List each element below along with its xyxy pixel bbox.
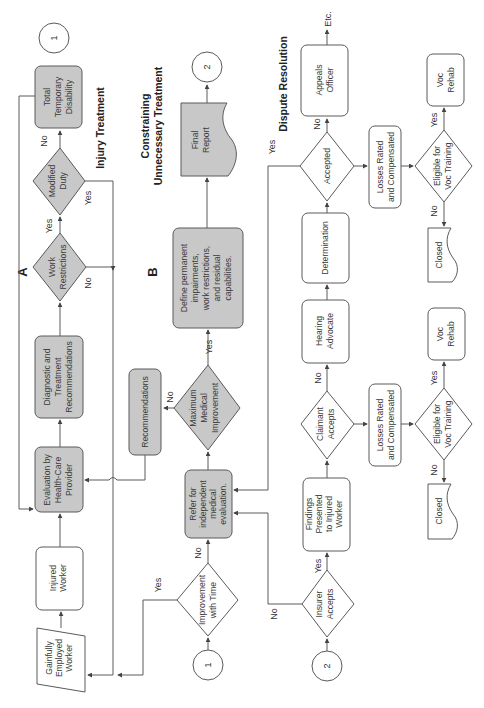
svg-text:Claimant: Claimant bbox=[315, 406, 325, 441]
edge-label-claimant-no: No bbox=[313, 372, 323, 384]
edge-label-mmi-no: No bbox=[165, 391, 175, 403]
node-determination: Determination bbox=[302, 213, 349, 283]
node-voc-rehab-1: Voc Rehab bbox=[427, 54, 464, 106]
edge-label-etc: Etc. bbox=[323, 11, 333, 27]
svg-text:Medical: Medical bbox=[199, 393, 209, 423]
section-title-constraining: Constraining bbox=[139, 94, 151, 159]
svg-text:and Compensated: and Compensated bbox=[386, 132, 396, 202]
svg-text:Losses Rated: Losses Rated bbox=[375, 399, 385, 452]
edge-label-work-restrictions-yes: Yes bbox=[44, 218, 54, 233]
svg-text:Officer: Officer bbox=[325, 67, 335, 92]
svg-text:Modified: Modified bbox=[47, 165, 57, 198]
connector-1-in-label: 1 bbox=[203, 662, 213, 667]
node-insurer-accepts: Insurer Accepts bbox=[302, 570, 354, 637]
node-modified-duty: Modified Duty bbox=[33, 148, 85, 215]
svg-text:Worker: Worker bbox=[334, 500, 344, 528]
svg-text:Gainfully: Gainfully bbox=[44, 641, 54, 675]
svg-text:capabilities.: capabilities. bbox=[223, 256, 233, 301]
svg-text:Hearing: Hearing bbox=[314, 316, 324, 346]
svg-text:and Compensated: and Compensated bbox=[386, 390, 396, 460]
svg-text:Employed: Employed bbox=[54, 639, 64, 677]
svg-text:Disability: Disability bbox=[64, 79, 74, 114]
svg-text:Refer for: Refer for bbox=[188, 487, 198, 521]
section-title-dispute-resolution: Dispute Resolution bbox=[277, 36, 289, 132]
svg-text:Voc Training: Voc Training bbox=[443, 400, 453, 448]
svg-text:Temporary: Temporary bbox=[53, 76, 63, 117]
svg-text:Final: Final bbox=[190, 131, 200, 150]
node-voc-rehab-2: Voc Rehab bbox=[428, 308, 465, 360]
svg-text:Voc Training: Voc Training bbox=[443, 142, 453, 190]
node-eligible-voc-training-1: Eligible for Voc Training bbox=[415, 130, 472, 202]
svg-text:and residual: and residual bbox=[212, 255, 222, 302]
edge-label-modified-duty-no: No bbox=[39, 135, 49, 147]
edge-label-improvement-no: No bbox=[193, 547, 203, 559]
node-gainfully-employed: Gainfully Employed Worker bbox=[37, 628, 85, 692]
node-findings-presented: Findings Presented to Injured Worker bbox=[303, 478, 350, 551]
svg-text:to Injured: to Injured bbox=[324, 496, 334, 532]
svg-text:Recommendations: Recommendations bbox=[140, 376, 150, 448]
svg-text:Health-Care: Health-Care bbox=[53, 457, 63, 504]
svg-text:Treatment: Treatment bbox=[53, 357, 63, 396]
svg-text:Provider: Provider bbox=[64, 464, 74, 496]
svg-text:independent: independent bbox=[198, 480, 208, 528]
marker-b: B bbox=[145, 267, 160, 276]
node-losses-rated-1: Losses Rated and Compensated bbox=[369, 126, 401, 208]
node-recommendations: Recommendations bbox=[129, 369, 161, 455]
node-losses-rated-2: Losses Rated and Compensated bbox=[369, 384, 401, 466]
svg-text:work restrictions,: work restrictions, bbox=[201, 246, 211, 311]
node-evaluation-health-care-provider: Evaluation by Health-Care Provider bbox=[35, 447, 83, 512]
svg-text:Rehab: Rehab bbox=[446, 321, 456, 347]
node-work-restrictions: Work Restrictions bbox=[33, 233, 86, 301]
node-final-report: Final Report bbox=[181, 103, 236, 176]
svg-text:Improvement: Improvement bbox=[197, 574, 207, 625]
svg-text:Accepts: Accepts bbox=[325, 589, 335, 620]
svg-text:with Time: with Time bbox=[208, 582, 218, 620]
workers-comp-flowchart: Injury Treatment Constraining Unnecessar… bbox=[0, 0, 484, 708]
svg-text:Worker: Worker bbox=[64, 644, 74, 672]
edge-label-eligible-1-yes: Yes bbox=[429, 112, 439, 127]
svg-text:Maximum: Maximum bbox=[188, 389, 198, 426]
edge-label-improvement-yes: Yes bbox=[153, 577, 163, 592]
edge-label-insurer-no: No bbox=[269, 608, 279, 620]
edge-label-accepted-yes: Yes bbox=[267, 139, 277, 154]
svg-text:Injured: Injured bbox=[48, 565, 58, 591]
svg-text:medical: medical bbox=[208, 489, 218, 519]
svg-text:Evaluation by: Evaluation by bbox=[42, 454, 52, 506]
svg-text:Presented: Presented bbox=[314, 494, 324, 533]
node-improvement-with-time: Improvement with Time bbox=[177, 563, 238, 636]
svg-text:impairments,: impairments, bbox=[190, 253, 200, 302]
node-hearing-advocate: Hearing Advocate bbox=[302, 300, 349, 363]
svg-text:Diagnostic and: Diagnostic and bbox=[42, 348, 52, 405]
node-total-temporary-disability: Total Temporary Disability bbox=[35, 66, 82, 128]
edge-label-accepted-no: No bbox=[312, 118, 322, 130]
node-appeals-officer: Appeals Officer bbox=[301, 45, 348, 116]
svg-text:Closed: Closed bbox=[434, 497, 444, 524]
edge-label-mmi-yes: Yes bbox=[204, 339, 214, 354]
section-title-unnecessary-treatment: Unnecessary Treatment bbox=[152, 66, 164, 185]
svg-text:Appeals: Appeals bbox=[314, 64, 324, 95]
svg-text:Voc: Voc bbox=[435, 72, 445, 87]
svg-text:Accepted: Accepted bbox=[322, 148, 332, 184]
node-maximum-medical-improvement: Maximum Medical Improvement bbox=[174, 365, 240, 450]
marker-a: A bbox=[15, 267, 30, 277]
svg-text:Work: Work bbox=[47, 256, 57, 277]
node-claimant-accepts: Claimant Accepts bbox=[301, 391, 354, 459]
svg-text:Worker: Worker bbox=[58, 564, 68, 592]
svg-text:Total: Total bbox=[42, 88, 52, 106]
node-closed-2: Closed bbox=[428, 484, 457, 539]
node-accepted: Accepted bbox=[300, 132, 354, 201]
node-injured-worker: Injured Worker bbox=[36, 547, 83, 610]
section-title-injury-treatment: Injury Treatment bbox=[94, 87, 106, 169]
node-define-permanent-impairments: Define permanent impairments, work restr… bbox=[173, 228, 243, 328]
svg-text:Define permanent: Define permanent bbox=[179, 243, 189, 312]
svg-text:Duty: Duty bbox=[58, 171, 68, 189]
edge-label-modified-duty-yes: Yes bbox=[83, 190, 93, 205]
svg-text:Determination: Determination bbox=[320, 221, 330, 275]
svg-text:Findings: Findings bbox=[304, 498, 314, 530]
svg-text:evaluation.: evaluation. bbox=[218, 483, 228, 525]
svg-text:Rehab: Rehab bbox=[446, 67, 456, 93]
connector-2-in-label: 2 bbox=[322, 663, 332, 668]
svg-text:Accepts: Accepts bbox=[326, 409, 336, 440]
node-eligible-voc-training-2: Eligible for Voc Training bbox=[415, 388, 472, 460]
svg-text:Report: Report bbox=[201, 126, 211, 152]
